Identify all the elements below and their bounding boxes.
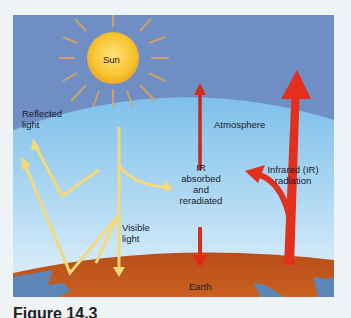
diagram-canvas [13,15,334,297]
visible-light-label: Visible light [122,222,150,244]
infrared-radiation-label: Infrared (IR) radiation [256,164,330,186]
earth-label: Earth [189,281,212,292]
atmosphere-label: Atmosphere [214,119,265,130]
ir-absorbed-label: IR absorbed and reradiated [169,162,233,206]
figure-caption: Figure 14.3 [13,303,97,318]
reflected-light-label: Reflected light [22,108,62,130]
sun-label: Sun [103,54,120,65]
greenhouse-effect-figure: Sun Reflected light Atmosphere IR absorb… [13,15,334,297]
